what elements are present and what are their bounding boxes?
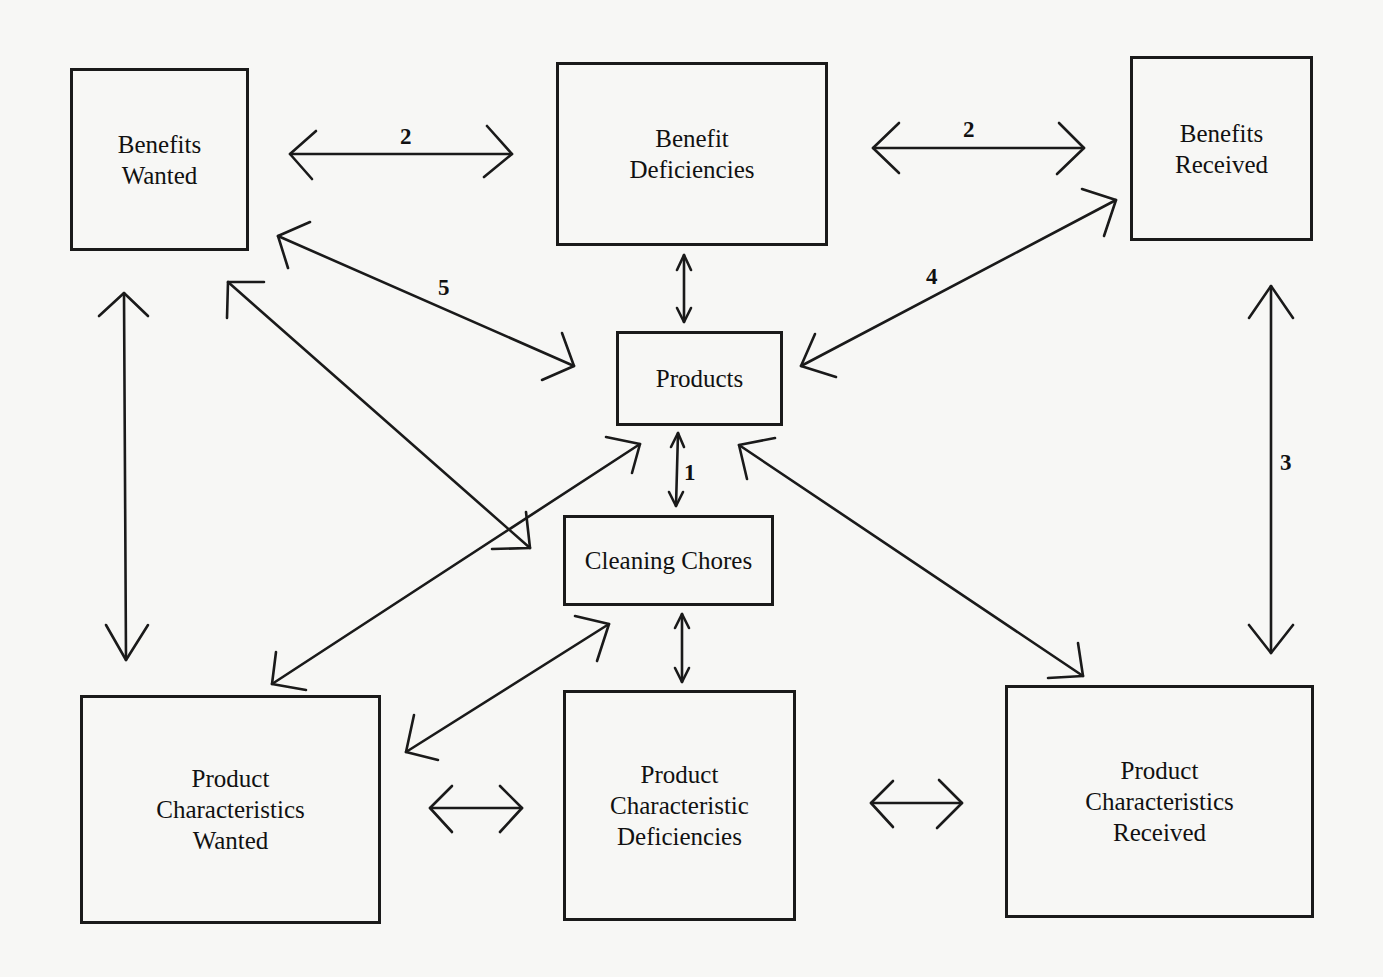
node-label: Product Characteristics Wanted — [156, 763, 305, 856]
node-label: Product Characteristic Deficiencies — [610, 759, 749, 852]
node-products: Products — [616, 331, 783, 426]
arrow-products-chores — [669, 433, 684, 506]
node-product-characteristics-received: Product Characteristics Received — [1005, 685, 1314, 918]
node-label: Cleaning Chores — [585, 545, 752, 576]
edge-label-bw-bd: 2 — [400, 124, 412, 150]
arrow-br-products — [801, 189, 1116, 377]
node-cleaning-chores: Cleaning Chores — [563, 515, 774, 606]
edge-label-br-products: 4 — [926, 264, 938, 290]
node-product-characteristic-deficiencies: Product Characteristic Deficiencies — [563, 690, 796, 921]
node-label: Benefit Deficiencies — [630, 123, 755, 185]
edge-label-products-chores: 1 — [684, 460, 696, 486]
node-label: Benefits Received — [1175, 118, 1268, 180]
node-product-characteristics-wanted: Product Characteristics Wanted — [80, 695, 381, 924]
diagram-canvas: Benefits Wanted Benefit Deficiencies Ben… — [0, 0, 1383, 977]
node-label: Benefits Wanted — [118, 129, 201, 191]
node-benefits-wanted: Benefits Wanted — [70, 68, 249, 251]
node-benefits-received: Benefits Received — [1130, 56, 1313, 241]
arrow-pcd-pcr — [871, 780, 962, 828]
node-benefit-deficiencies: Benefit Deficiencies — [556, 62, 828, 246]
arrow-bw-pcw — [99, 293, 148, 660]
node-label: Product Characteristics Received — [1085, 755, 1234, 848]
arrow-products-pcr — [739, 438, 1083, 678]
edge-label-br-pcr: 3 — [1280, 450, 1292, 476]
arrow-bd-products — [677, 255, 691, 322]
arrow-bd-br — [873, 123, 1084, 174]
arrow-chores-pcd — [675, 614, 689, 682]
edge-label-bd-br: 2 — [963, 117, 975, 143]
edge-label-bw-products: 5 — [438, 275, 450, 301]
arrow-bw-products — [278, 222, 574, 380]
node-label: Products — [656, 363, 744, 394]
arrow-bw-chores — [227, 282, 530, 549]
arrow-pcw-pcd — [430, 786, 522, 832]
